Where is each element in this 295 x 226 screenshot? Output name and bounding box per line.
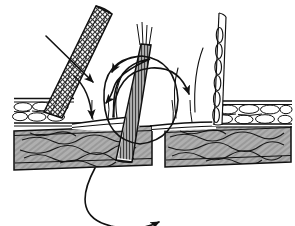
figure-canvas: Sectional line-art diagram of a fibrous … [0, 0, 295, 226]
figure-root: Sectional line-art diagram of a fibrous … [0, 0, 295, 226]
